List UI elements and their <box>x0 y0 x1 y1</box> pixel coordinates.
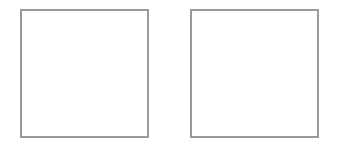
empty-box-right <box>190 9 319 138</box>
empty-box-left <box>20 9 149 138</box>
